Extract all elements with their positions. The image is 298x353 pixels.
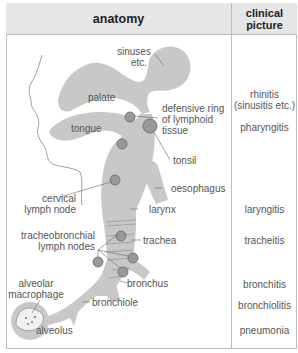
label-bronchiole: bronchiole	[92, 297, 138, 308]
label-bronchus: bronchus	[127, 278, 168, 289]
tonsil-node-icon	[143, 119, 157, 133]
tracheobronchial-node-4-icon	[118, 267, 128, 277]
tracheobronchial-node-2-icon	[93, 257, 103, 267]
clinical-bronchiolitis: bronchiolitis	[232, 300, 297, 311]
adenoid-node-icon	[125, 112, 135, 122]
label-sinuses: sinuses etc.	[117, 46, 151, 68]
label-palate: palate	[88, 92, 115, 103]
clinical-tracheitis: tracheitis	[232, 235, 297, 246]
cervical-node-icon	[110, 175, 120, 185]
label-cervical-lymph-node: cervical lymph node	[20, 193, 76, 215]
label-tracheobronchial-lymph-nodes: tracheobronchial lymph nodes	[8, 230, 95, 252]
tracheobronchial-node-3-icon	[128, 253, 138, 263]
label-tongue: tongue	[71, 123, 102, 134]
label-defensive-ring: defensive ring of lymphoid tissue	[162, 103, 224, 136]
clinical-laryngitis: laryngitis	[232, 204, 297, 215]
label-oesophagus: oesophagus	[171, 183, 226, 194]
clinical-pharyngitis: pharyngitis	[232, 122, 297, 133]
label-trachea: trachea	[143, 235, 176, 246]
label-alveolus: alveolus	[36, 325, 73, 336]
label-alveolar-macrophage: alveolar macrophage	[8, 278, 64, 300]
clinical-bronchitis: bronchitis	[232, 279, 297, 290]
clinical-pneumonia: pneumonia	[232, 325, 297, 336]
tracheobronchial-node-1-icon	[116, 231, 126, 241]
lingual-node-icon	[117, 139, 127, 149]
clinical-rhinitis: rhinitis (sinusitis etc.)	[232, 89, 297, 111]
label-tonsil: tonsil	[173, 155, 196, 166]
label-larynx: larynx	[149, 204, 176, 215]
